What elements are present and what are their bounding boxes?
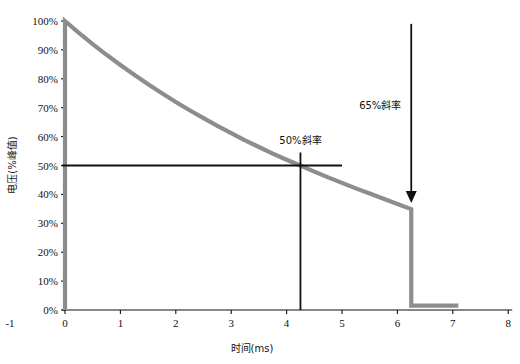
x-axis-tick-label: 5 (339, 317, 345, 329)
y-axis-tick-label: 0% (43, 304, 58, 316)
x-axis-tick-label: 7 (450, 317, 456, 329)
x-axis-tick-label: 1 (118, 317, 124, 329)
y-axis-tick-label: 20% (38, 246, 58, 258)
voltage-decay-chart: 0%10%20%30%40%50%60%70%80%90%100% 012345… (0, 0, 520, 364)
x-axis-tick-label: 6 (395, 317, 401, 329)
x-axis-tick-label: 4 (284, 317, 290, 329)
y-axis-tick-label: 80% (38, 73, 58, 85)
x-axis-tick-label: 3 (228, 317, 234, 329)
x-axis-tick-label: 2 (173, 317, 179, 329)
x-axis-tick-label: 0 (62, 317, 68, 329)
x-axis-title: 时间(ms) (231, 342, 274, 354)
y-axis-tick-label: 10% (38, 275, 58, 287)
x-axis-tick-label: 8 (505, 317, 511, 329)
x-axis-title-group: 时间(ms) (231, 342, 274, 354)
y-axis-title: 电压(%峰值) (6, 136, 18, 193)
sixty-five-percent-slope-label: 65%斜率 (359, 99, 401, 111)
negative-axis-label-group: -1 (5, 317, 14, 329)
y-axis-tick-label: 60% (38, 131, 58, 143)
y-axis-tick-label: 50% (38, 160, 58, 172)
y-axis-tick-label: 40% (38, 188, 58, 200)
y-axis-tick-label: 100% (32, 15, 58, 27)
chart-container: 0%10%20%30%40%50%60%70%80%90%100% 012345… (0, 0, 520, 364)
y-axis-tick-label: 90% (38, 44, 58, 56)
y-axis-tick-label: 30% (38, 217, 58, 229)
y-axis-title-group: 电压(%峰值) (6, 136, 18, 193)
fifty-percent-slope-label: 50%斜率 (279, 134, 321, 146)
x-axis-extra-label: -1 (5, 317, 14, 329)
y-axis-tick-label: 70% (38, 102, 58, 114)
